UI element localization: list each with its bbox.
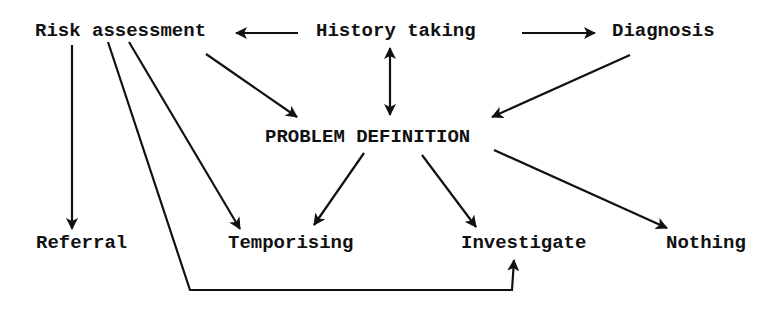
node-problem-definition: PROBLEM DEFINITION bbox=[265, 128, 470, 147]
node-risk-assessment: Risk assessment bbox=[35, 22, 206, 41]
node-temporising: Temporising bbox=[228, 234, 353, 253]
edge-layer bbox=[0, 0, 784, 321]
node-history-taking: History taking bbox=[316, 22, 476, 41]
arrow-problem-to-nothing bbox=[494, 150, 667, 228]
node-investigate: Investigate bbox=[461, 234, 586, 253]
node-diagnosis: Diagnosis bbox=[612, 22, 715, 41]
diagram-canvas: Risk assessment History taking Diagnosis… bbox=[0, 0, 784, 321]
node-referral: Referral bbox=[36, 234, 127, 253]
arrow-problem-to-temporising bbox=[314, 153, 364, 225]
node-nothing: Nothing bbox=[666, 234, 746, 253]
arrow-problem-to-investigate bbox=[422, 155, 476, 227]
arrow-diagnosis-to-problem bbox=[492, 55, 630, 117]
arrow-risk-to-temporising bbox=[129, 42, 240, 229]
arrow-risk-to-problem bbox=[206, 54, 297, 117]
